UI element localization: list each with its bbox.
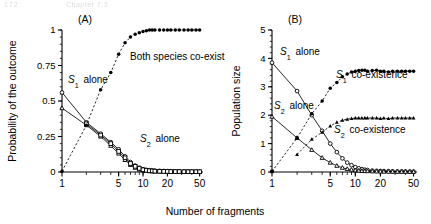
y-tick-label: 2 <box>260 109 265 120</box>
series-s1-alone <box>60 91 201 174</box>
data-point-filled-circle <box>182 28 186 32</box>
panel-b: 01234515102050(B)Population sizeS1 alone… <box>230 13 420 189</box>
series-extinction-filled-square- <box>270 170 274 174</box>
data-point-filled-circle <box>109 71 113 75</box>
data-point-open-circle <box>341 157 345 161</box>
data-point-filled-circle <box>335 81 339 85</box>
data-point-filled-circle <box>198 28 202 32</box>
data-point-open-triangle <box>60 106 64 110</box>
x-tick-label: 50 <box>408 178 420 189</box>
data-point-open-triangle <box>349 168 353 172</box>
x-tick-label: 10 <box>350 178 362 189</box>
x-tick-label: 10 <box>137 178 149 189</box>
data-point-open-square <box>109 142 113 146</box>
data-point-filled-circle <box>153 28 157 32</box>
y-axis-title-b: Population size <box>230 65 242 136</box>
data-point-open-square <box>177 170 181 174</box>
data-point-open-triangle <box>328 161 332 165</box>
data-point-filled-circle <box>129 35 133 39</box>
data-point-open-triangle <box>345 167 349 171</box>
panel-a-tag: (A) <box>78 13 92 25</box>
data-point-open-square <box>123 156 127 160</box>
data-point-filled-circle <box>166 28 170 32</box>
data-point-filled-circle <box>412 69 416 73</box>
data-point-open-square <box>169 170 173 174</box>
data-point-filled-circle <box>138 31 142 35</box>
data-point-open-square <box>99 133 103 137</box>
series-both-species-co-exist <box>60 28 201 173</box>
data-point-filled-circle <box>158 28 162 32</box>
y-tick-label: 0 <box>50 166 55 177</box>
data-point-open-square <box>117 150 121 154</box>
data-point-filled-circle <box>133 33 137 37</box>
x-tick-label: 20 <box>162 178 174 189</box>
x-tick-label: 5 <box>327 178 333 189</box>
data-point-open-square <box>153 169 157 173</box>
panel-b-tag: (B) <box>288 13 302 25</box>
data-point-open-square <box>158 169 162 173</box>
data-point-open-square <box>198 170 202 174</box>
data-point-filled-circle <box>408 69 412 73</box>
annotation-s1-alone-b: S1 alone <box>280 46 320 62</box>
data-point-open-circle <box>350 163 354 167</box>
data-point-open-square <box>190 170 194 174</box>
data-point-open-square <box>133 164 137 168</box>
data-point-open-square <box>137 167 141 171</box>
data-point-filled-circle <box>186 28 190 32</box>
data-point-filled-square <box>270 170 274 174</box>
data-point-filled-circle <box>320 99 324 103</box>
annotation-s1-coexistence: S1 co-existence <box>336 69 408 85</box>
data-point-open-square <box>186 170 190 174</box>
data-point-open-circle <box>345 161 349 165</box>
data-point-filled-circle <box>310 112 314 116</box>
data-point-open-triangle <box>340 166 344 170</box>
annotation-s2-coexistence: S2 co-existence <box>334 124 406 140</box>
y-tick-label: 0.5 <box>42 95 55 106</box>
data-point-open-circle <box>328 142 332 146</box>
data-point-filled-circle <box>295 136 299 140</box>
annotation-s2-alone-a: S2 alone <box>140 133 180 149</box>
data-point-filled-circle <box>328 86 332 90</box>
y-axis-title-a: Probability of the outcome <box>6 40 18 162</box>
x-axis-title: Number of fragments <box>166 205 265 217</box>
data-point-open-square <box>194 170 198 174</box>
data-point-open-circle <box>270 61 274 65</box>
data-point-filled-circle <box>190 28 194 32</box>
y-tick-label: 1 <box>260 138 265 149</box>
data-point-filled-circle <box>145 29 149 33</box>
data-point-filled-circle <box>141 30 145 33</box>
data-point-filled-triangle <box>382 116 386 120</box>
two-panel-figure: 00.250.50.75115102050(A)Probability of t… <box>0 0 431 224</box>
data-point-filled-circle <box>194 28 198 32</box>
y-tick-label: 3 <box>260 81 265 92</box>
data-point-filled-circle <box>174 28 178 32</box>
data-point-filled-circle <box>177 28 181 32</box>
data-point-open-triangle <box>335 164 339 168</box>
data-point-filled-circle <box>169 28 173 32</box>
data-point-open-square <box>173 170 177 174</box>
panel-a: 00.250.50.75115102050(A)Probability of t… <box>6 13 225 189</box>
y-tick-label: 5 <box>260 24 265 35</box>
data-point-filled-circle <box>60 170 64 174</box>
data-point-filled-triangle <box>328 124 332 128</box>
x-tick-label: 50 <box>194 178 206 189</box>
data-point-filled-circle <box>162 28 166 32</box>
data-point-filled-circle <box>117 52 121 56</box>
y-tick-label: 4 <box>260 53 265 64</box>
figure-container: 00.250.50.75115102050(A)Probability of t… <box>0 0 431 224</box>
x-tick-label: 1 <box>269 178 275 189</box>
data-point-open-square <box>162 170 166 174</box>
data-point-filled-triangle <box>310 137 314 141</box>
y-tick-label: 0 <box>260 166 265 177</box>
y-tick-label: 1 <box>50 24 55 35</box>
data-point-open-circle <box>60 91 64 95</box>
data-point-filled-circle <box>99 88 103 92</box>
x-tick-label: 1 <box>59 178 65 189</box>
data-point-open-square <box>129 162 133 166</box>
x-tick-label: 5 <box>116 178 122 189</box>
x-tick-label: 20 <box>375 178 387 189</box>
data-point-open-circle <box>295 89 299 93</box>
data-point-filled-triangle <box>340 118 344 122</box>
annotation-s2-alone-b: S2 alone <box>274 100 314 116</box>
data-point-open-square <box>182 170 186 174</box>
